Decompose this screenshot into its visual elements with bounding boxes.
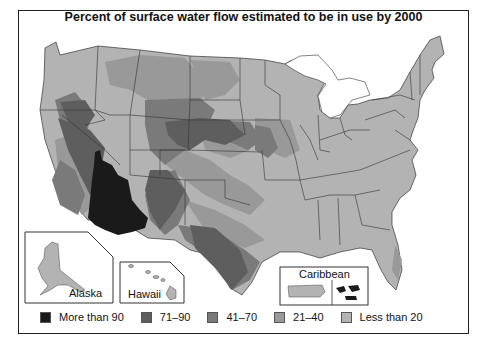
legend-item-21-40: 21–40 <box>274 311 324 323</box>
legend-label: 21–40 <box>293 311 324 323</box>
caribbean-label: Caribbean <box>299 268 350 280</box>
legend-swatch-icon <box>274 312 285 323</box>
legend-item-71-90: 71–90 <box>141 311 191 323</box>
legend-label: More than 90 <box>59 311 124 323</box>
legend-swatch-icon <box>40 312 51 323</box>
legend-swatch-icon <box>341 312 352 323</box>
puerto-rico-shape <box>288 285 325 297</box>
legend-label: Less than 20 <box>360 311 423 323</box>
legend-label: 41–70 <box>226 311 257 323</box>
legend-label: 71–90 <box>160 311 191 323</box>
legend-item-less-than-20: Less than 20 <box>341 311 423 323</box>
legend: More than 90 71–90 41–70 21–40 Less than… <box>40 311 440 323</box>
legend-swatch-icon <box>207 312 218 323</box>
legend-swatch-icon <box>141 312 152 323</box>
hawaii-label: Hawaii <box>128 288 161 300</box>
legend-item-more-than-90: More than 90 <box>40 311 124 323</box>
legend-item-41-70: 41–70 <box>207 311 257 323</box>
alaska-label: Alaska <box>69 287 102 299</box>
